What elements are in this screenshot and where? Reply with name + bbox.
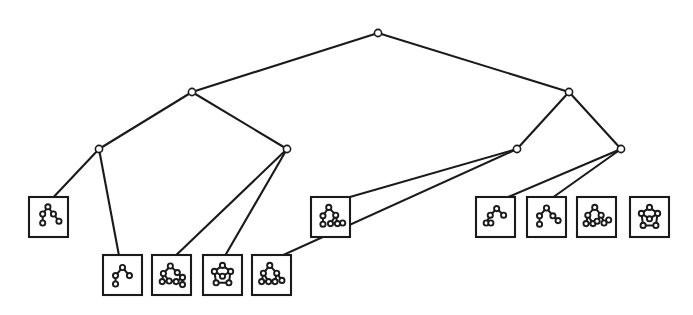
graph-vertex [594,219,599,224]
graph-vertex [320,213,325,218]
graph-vertex [160,279,165,284]
tree-edge [99,92,192,149]
graph-vertex [266,279,271,284]
graph-vertex [174,279,179,284]
graph-vertex [40,220,45,225]
graph-vertex [585,213,590,218]
leaf-box-layer [29,197,669,295]
leaf-box [527,197,566,237]
tree-edge [99,149,120,261]
graph-vertex [488,220,493,225]
tree-internal-node-n-lr[interactable] [283,145,290,152]
graph-vertex [641,223,646,228]
graph-vertex [261,271,266,276]
graph-vertex [494,206,499,211]
graph-vertex [127,273,132,278]
leaf-box [103,255,142,295]
graph-vertex [647,205,652,210]
graph-vertex [175,270,180,275]
graph-vertex [259,279,264,284]
leaf-node-graph-10[interactable] [630,197,669,237]
graph-vertex [655,211,660,216]
graph-vertex [113,273,118,278]
tree-diagram-canvas [0,0,693,315]
graph-vertex [120,265,125,270]
leaf-box [311,197,350,237]
graph-vertex [647,216,652,221]
graph-vertex [167,278,172,283]
tree-edge [170,149,287,261]
graph-vertex [488,213,493,218]
tree-edge [329,149,517,203]
graph-vertex [220,263,225,268]
graph-vertex [40,211,45,216]
tree-edge [378,33,569,92]
graph-vertex [550,213,555,218]
leaf-box [152,255,191,295]
graph-vertex [214,280,219,285]
graph-vertex [606,217,611,222]
tree-internal-node-n-rr[interactable] [617,145,624,152]
tree-edge [569,92,621,149]
graph-vertex [328,221,333,226]
leaf-node-graph-5[interactable] [252,255,291,295]
tree-internal-node-n-r[interactable] [565,88,572,95]
graph-vertex [51,211,56,216]
leaf-node-graph-7[interactable] [476,197,515,237]
graph-vertex [592,205,597,210]
graph-vertex [320,222,325,227]
graph-vertex [599,213,604,218]
graph-vertex [212,269,217,274]
graph-vertex [326,205,331,210]
leaf-node-graph-8[interactable] [527,197,566,237]
figure-root [0,0,693,315]
graph-vertex [556,218,561,223]
graph-vertex [544,205,549,210]
internal-node-layer [95,29,624,152]
graph-vertex [537,222,542,227]
tree-edge [48,149,99,203]
leaf-box [252,255,291,295]
graph-vertex [501,213,506,218]
graph-vertex [220,274,225,279]
leaf-node-graph-1[interactable] [29,197,68,237]
leaf-node-graph-2[interactable] [103,255,142,295]
graph-vertex [274,271,279,276]
tree-internal-node-n-l[interactable] [188,88,195,95]
graph-vertex [272,279,277,284]
tree-edge [192,92,287,149]
leaf-box [476,197,515,237]
graph-vertex [653,223,658,228]
tree-internal-node-root[interactable] [374,29,381,36]
tree-internal-node-n-ll[interactable] [95,145,102,152]
graph-vertex [583,221,588,226]
graph-vertex [45,204,50,209]
leaf-box [29,197,68,237]
graph-vertex [180,282,185,287]
graph-vertex [161,271,166,276]
leaf-node-graph-6[interactable] [311,197,350,237]
graph-vertex [639,211,644,216]
graph-vertex [228,269,233,274]
graph-vertex [56,219,61,224]
graph-vertex [180,275,185,280]
tree-edge [192,33,378,92]
graph-vertex [537,213,542,218]
graph-vertex [267,263,272,268]
graph-vertex [340,220,345,225]
graph-vertex [226,280,231,285]
tree-edge [517,92,569,149]
graph-vertex [279,278,284,283]
leaf-node-graph-4[interactable] [203,255,242,295]
tree-internal-node-n-rl[interactable] [513,145,520,152]
graph-vertex [333,213,338,218]
tree-edge [222,149,287,261]
leaf-node-graph-9[interactable] [577,197,616,237]
graph-vertex [168,263,173,268]
leaf-node-graph-3[interactable] [152,255,191,295]
graph-vertex [113,281,118,286]
